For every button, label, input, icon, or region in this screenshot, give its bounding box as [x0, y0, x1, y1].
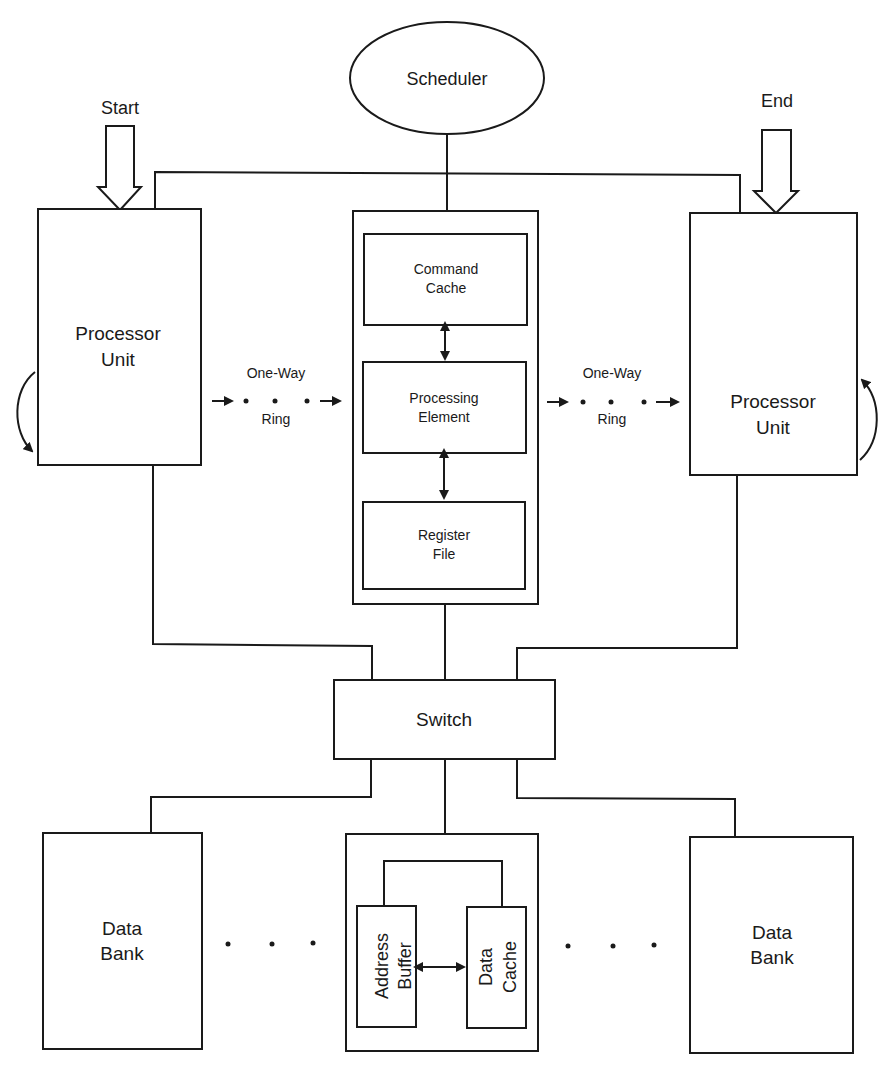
scheduler-node: Scheduler: [350, 22, 544, 134]
right-ring-label-line1: One-Way: [583, 365, 642, 381]
register-file-label-line1: Register: [418, 527, 470, 543]
switch-to-right-databank-wire: [517, 759, 735, 836]
end-label: End: [761, 91, 793, 111]
command-cache-block: Command Cache: [364, 234, 527, 325]
left-ring-label-line1: One-Way: [247, 365, 306, 381]
center-processing-unit: Command Cache Processing Element Registe…: [353, 211, 538, 604]
left-data-bank-label-line1: Data: [102, 918, 143, 939]
scheduler-label: Scheduler: [406, 69, 487, 89]
architecture-diagram: Scheduler Start End Processor Unit Proce…: [0, 0, 887, 1065]
register-file-block: Register File: [363, 502, 525, 589]
processing-element-block: Processing Element: [363, 362, 526, 453]
left-one-way-ring: One-Way Ring: [212, 365, 340, 427]
right-processor-label-line1: Processor: [730, 391, 816, 412]
left-data-bank-label-line2: Bank: [100, 943, 144, 964]
address-buffer-label-line1: Address: [372, 933, 392, 999]
data-cache-label-line2: Cache: [500, 941, 520, 993]
right-processor-to-switch-wire: [517, 475, 737, 680]
right-data-bank-label-line1: Data: [752, 922, 793, 943]
register-file-label-line2: File: [433, 546, 456, 562]
start-arrow-icon: [98, 126, 141, 210]
left-processor-unit: Processor Unit: [38, 209, 201, 465]
address-buffer-block: Address Buffer: [357, 906, 416, 1027]
switch-label: Switch: [416, 709, 472, 730]
data-cache-block: Data Cache: [467, 907, 526, 1028]
address-buffer-label-line2: Buffer: [395, 942, 415, 990]
right-ring-label-line2: Ring: [598, 411, 627, 427]
left-ring-label-line2: Ring: [262, 411, 291, 427]
start-label: Start: [101, 98, 139, 118]
left-loop-arrow-icon: [17, 372, 35, 451]
command-cache-label-line2: Cache: [426, 280, 467, 296]
switch-node: Switch: [334, 680, 555, 759]
memory-unit: Address Buffer Data Cache: [346, 834, 538, 1051]
right-loop-arrow-icon: [860, 380, 877, 460]
data-cache-label-line1: Data: [476, 947, 496, 986]
right-processor-unit: Processor Unit: [690, 213, 857, 475]
right-one-way-ring: One-Way Ring: [547, 365, 678, 427]
right-data-bank: Data Bank: [690, 837, 853, 1053]
left-processor-to-switch-wire: [153, 465, 372, 680]
left-ellipsis-dots: [226, 941, 316, 947]
end-arrow-icon: [754, 130, 798, 213]
left-processor-label-line1: Processor: [75, 323, 161, 344]
command-cache-label-line1: Command: [414, 261, 479, 277]
processing-element-label-line1: Processing: [409, 390, 478, 406]
processing-element-label-line2: Element: [418, 409, 469, 425]
switch-to-left-databank-wire: [151, 759, 371, 832]
right-data-bank-label-line2: Bank: [750, 947, 794, 968]
left-processor-label-line2: Unit: [101, 349, 136, 370]
right-ellipsis-dots: [566, 943, 657, 949]
right-processor-label-line2: Unit: [756, 417, 791, 438]
left-data-bank: Data Bank: [43, 833, 202, 1049]
